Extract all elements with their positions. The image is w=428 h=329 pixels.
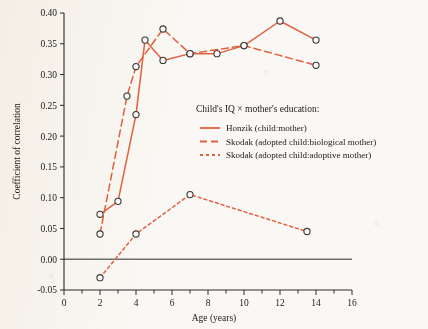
y-tick-label: 0.00 bbox=[40, 255, 57, 265]
data-point bbox=[133, 63, 139, 69]
data-point bbox=[313, 37, 319, 43]
legend-title: Child's IQ × mother's education: bbox=[196, 104, 319, 114]
series-line bbox=[100, 21, 316, 214]
data-point bbox=[313, 62, 319, 68]
data-point bbox=[187, 191, 193, 197]
data-point bbox=[133, 111, 139, 117]
data-point bbox=[115, 198, 121, 204]
series-3 bbox=[97, 191, 310, 280]
data-point bbox=[124, 93, 130, 99]
x-tick-label: 6 bbox=[170, 298, 175, 308]
chart-figure: -0.050.000.050.100.150.200.250.300.350.4… bbox=[0, 0, 428, 329]
data-point bbox=[97, 231, 103, 237]
data-point bbox=[277, 18, 283, 24]
y-tick-label: 0.30 bbox=[40, 70, 57, 80]
x-tick-label: 16 bbox=[347, 298, 357, 308]
chart-legend: Child's IQ × mother's education:Honzik (… bbox=[196, 104, 376, 160]
series-1 bbox=[97, 18, 319, 217]
legend-label: Honzik (child:mother) bbox=[226, 123, 307, 133]
data-point bbox=[241, 43, 247, 49]
x-tick-label: 12 bbox=[275, 298, 285, 308]
data-point bbox=[97, 275, 103, 281]
data-point bbox=[142, 37, 148, 43]
y-tick-label: 0.05 bbox=[40, 224, 57, 234]
y-tick-label: 0.10 bbox=[40, 193, 57, 203]
correlation-line-chart: -0.050.000.050.100.150.200.250.300.350.4… bbox=[0, 0, 428, 329]
y-axis-ticks: -0.050.000.050.100.150.200.250.300.350.4… bbox=[37, 8, 64, 295]
y-tick-label: 0.20 bbox=[40, 132, 57, 142]
y-tick-label: -0.05 bbox=[37, 285, 57, 295]
y-tick-label: 0.15 bbox=[40, 162, 57, 172]
y-tick-label: 0.25 bbox=[40, 101, 57, 111]
x-tick-label: 2 bbox=[98, 298, 103, 308]
legend-label: Skodak (adopted child:biological mother) bbox=[226, 137, 376, 147]
series-line bbox=[100, 195, 307, 278]
data-point bbox=[187, 51, 193, 57]
x-axis-ticks: 0246810121416 bbox=[62, 290, 357, 308]
x-tick-label: 10 bbox=[239, 298, 249, 308]
data-point bbox=[160, 26, 166, 32]
data-point bbox=[133, 231, 139, 237]
data-point bbox=[304, 228, 310, 234]
x-tick-label: 8 bbox=[206, 298, 211, 308]
legend-label: Skodak (adopted child:adoptive mother) bbox=[226, 150, 371, 160]
x-tick-label: 4 bbox=[134, 298, 139, 308]
x-axis-title: Age (years) bbox=[192, 313, 237, 324]
data-point bbox=[97, 211, 103, 217]
data-point bbox=[160, 57, 166, 63]
x-tick-label: 14 bbox=[311, 298, 321, 308]
y-tick-label: 0.35 bbox=[40, 39, 57, 49]
data-point bbox=[214, 51, 220, 57]
x-tick-label: 0 bbox=[62, 298, 67, 308]
y-tick-label: 0.40 bbox=[40, 8, 57, 18]
y-axis-title: Coefficient of correlation bbox=[12, 103, 22, 200]
